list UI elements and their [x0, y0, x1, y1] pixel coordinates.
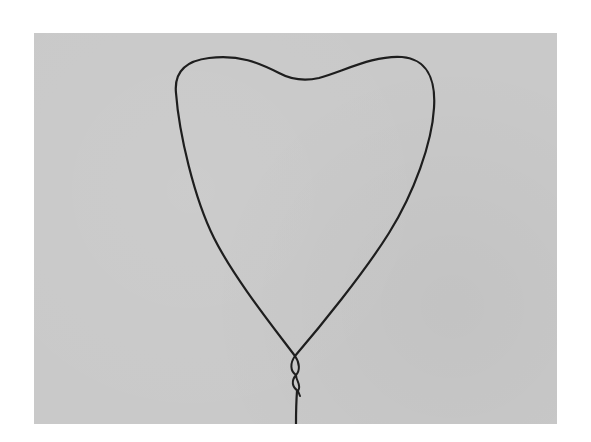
wire-stem	[296, 391, 297, 424]
photograph: Wire bent into a heart shape with twiste…	[34, 33, 557, 424]
heart-wire	[176, 57, 434, 356]
wire-twist	[291, 356, 300, 396]
heart-wire-drawing	[34, 33, 557, 424]
